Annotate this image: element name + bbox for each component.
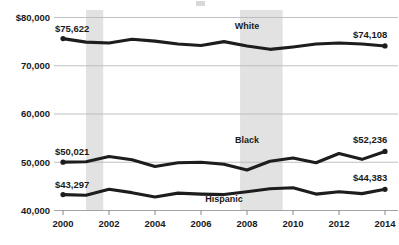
series-end-point-white <box>382 43 387 48</box>
x-axis-label-2006: 2006 <box>190 218 211 229</box>
recession-2008-band <box>240 10 283 211</box>
series-start-value-hispanic: $43,297 <box>55 179 89 190</box>
series-end-point-hispanic <box>382 187 387 192</box>
chart-canvas: 40,00050,00060,00070,000$80,000 20002002… <box>0 0 399 245</box>
series-start-point-black <box>60 160 65 165</box>
x-tickmarks-group <box>63 211 385 216</box>
x-axis-labels-group: 20002002200420062008201020122014 <box>52 218 396 229</box>
recession-bands-group <box>86 10 283 211</box>
y-axis-label-60000: 60,000 <box>21 108 50 119</box>
income-by-race-line-chart: 40,00050,00060,00070,000$80,000 20002002… <box>0 0 399 245</box>
x-axis-label-2004: 2004 <box>144 218 166 229</box>
x-axis-label-2008: 2008 <box>236 218 257 229</box>
series-label-black: Black <box>235 135 260 145</box>
x-axis-label-2010: 2010 <box>282 218 303 229</box>
series-start-value-white: $75,622 <box>55 23 89 34</box>
series-line-black <box>63 151 385 170</box>
y-axis-label-80000: $80,000 <box>16 12 50 23</box>
y-axis-labels-group: 40,00050,00060,00070,000$80,000 <box>16 12 50 216</box>
series-end-value-hispanic: $44,383 <box>353 172 387 183</box>
series-end-value-white: $74,108 <box>353 29 387 40</box>
gridlines-group <box>54 18 398 211</box>
series-line-white <box>63 39 385 50</box>
y-axis-label-70000: 70,000 <box>21 60 50 71</box>
series-start-value-black: $50,021 <box>55 146 90 157</box>
x-axis-label-2012: 2012 <box>328 218 349 229</box>
x-axis-label-2002: 2002 <box>98 218 119 229</box>
title-stub-artifact <box>196 1 205 6</box>
series-start-point-hispanic <box>60 192 65 197</box>
x-axis-label-2014: 2014 <box>374 218 396 229</box>
series-endpoints-group <box>60 36 387 197</box>
y-axis-label-50000: 50,000 <box>21 157 50 168</box>
series-end-point-black <box>382 149 387 154</box>
series-label-hispanic: Hispanic <box>205 194 243 204</box>
series-start-point-white <box>60 36 65 41</box>
series-label-white: White <box>235 21 260 31</box>
x-axis-label-2000: 2000 <box>52 218 73 229</box>
series-end-value-black: $52,236 <box>353 134 387 145</box>
y-axis-label-40000: 40,000 <box>21 205 50 216</box>
series-lines-group <box>63 39 385 197</box>
